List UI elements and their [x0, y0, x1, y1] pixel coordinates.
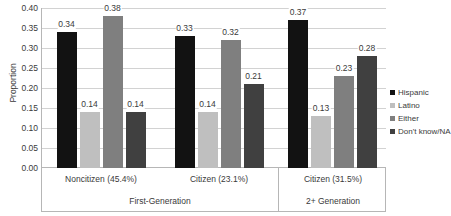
legend-item-hispanic[interactable]: Hispanic: [390, 86, 431, 99]
bar-either[interactable]: 0.32: [221, 40, 241, 168]
bar-groups: 0.34 0.14 0.38 0.14: [42, 8, 386, 168]
bar-slot: 0.21: [244, 8, 264, 168]
bar-slot: 0.23: [334, 8, 354, 168]
x-tick-label-noncitizen: Noncitizen (45.4%): [42, 168, 160, 190]
bar-slot: 0.32: [221, 8, 241, 168]
y-tick-label: 0.25: [8, 64, 38, 73]
bar-latino[interactable]: 0.14: [198, 112, 218, 168]
bar-hispanic[interactable]: 0.34: [57, 32, 77, 168]
x-axis-supercategory-row: First-Generation 2+ Generation: [42, 190, 385, 212]
y-tick-label: 0.35: [8, 24, 38, 33]
legend-item-either[interactable]: Either: [390, 112, 431, 125]
bar-value-label: 0.32: [221, 28, 240, 37]
bar-dont-know-na[interactable]: 0.21: [244, 84, 264, 168]
legend-label: Don't know/NA: [398, 128, 451, 136]
bar-value-label: 0.28: [358, 44, 377, 53]
bar-either[interactable]: 0.38: [103, 16, 123, 168]
legend-label: Latino: [398, 102, 420, 110]
bar-value-label: 0.37: [289, 8, 308, 17]
legend-label: Either: [398, 115, 419, 123]
legend-swatch-icon: [390, 129, 395, 134]
x-group-label-2plus-generation: 2+ Generation: [278, 190, 387, 212]
bar-value-label: 0.14: [198, 100, 217, 109]
x-axis: Noncitizen (45.4%) Citizen (23.1%) Citiz…: [41, 168, 386, 212]
legend-item-dont-know-na[interactable]: Don't know/NA: [390, 125, 431, 138]
bar-group-citizen-first-generation: 0.33 0.14 0.32 0.21: [160, 8, 278, 168]
bar-value-label: 0.34: [57, 20, 76, 29]
bar-slot: 0.38: [103, 8, 123, 168]
bar-value-label: 0.21: [244, 72, 263, 81]
bar-group-citizen-2plus-generation: 0.37 0.13 0.23 0.28: [278, 8, 387, 168]
bar-value-label: 0.33: [175, 24, 194, 33]
bar-slot: 0.14: [126, 8, 146, 168]
bar-slot: 0.14: [80, 8, 100, 168]
y-tick-label: 0.05: [8, 144, 38, 153]
bar-value-label: 0.14: [126, 100, 145, 109]
x-group-label-first-generation: First-Generation: [42, 190, 278, 212]
legend-item-latino[interactable]: Latino: [390, 99, 431, 112]
legend-swatch-icon: [390, 90, 395, 95]
bar-slot: 0.14: [198, 8, 218, 168]
bar-value-label: 0.14: [80, 100, 99, 109]
x-tick-label-citizen-2plus: Citizen (31.5%): [278, 168, 387, 190]
bar-slot: 0.28: [357, 8, 377, 168]
y-tick-label: 0.10: [8, 124, 38, 133]
bar-slot: 0.37: [288, 8, 308, 168]
legend-swatch-icon: [390, 116, 395, 121]
y-tick-label: 0.00: [8, 164, 38, 173]
bar-value-label: 0.38: [103, 4, 122, 13]
y-axis-tick-labels: 0.40 0.35 0.30 0.25 0.20 0.15 0.10 0.05 …: [8, 8, 38, 168]
bar-value-label: 0.13: [312, 104, 331, 113]
bar-group-noncitizen-first-generation: 0.34 0.14 0.38 0.14: [42, 8, 160, 168]
plot-area: 0.34 0.14 0.38 0.14: [41, 8, 386, 168]
legend: Hispanic Latino Either Don't know/NA: [390, 86, 431, 138]
bar-slot: 0.13: [311, 8, 331, 168]
y-tick-label: 0.20: [8, 84, 38, 93]
bar-slot: 0.34: [57, 8, 77, 168]
y-tick-label: 0.40: [8, 4, 38, 13]
bar-dont-know-na[interactable]: 0.14: [126, 112, 146, 168]
bar-latino[interactable]: 0.13: [311, 116, 331, 168]
bar-hispanic[interactable]: 0.33: [175, 36, 195, 168]
bar-dont-know-na[interactable]: 0.28: [357, 56, 377, 168]
bar-slot: 0.33: [175, 8, 195, 168]
x-tick-label-citizen-first: Citizen (23.1%): [160, 168, 278, 190]
legend-label: Hispanic: [398, 89, 429, 97]
y-tick-label: 0.30: [8, 44, 38, 53]
legend-swatch-icon: [390, 103, 395, 108]
bar-hispanic[interactable]: 0.37: [288, 20, 308, 168]
bar-either[interactable]: 0.23: [334, 76, 354, 168]
x-axis-category-row: Noncitizen (45.4%) Citizen (23.1%) Citiz…: [42, 168, 385, 190]
bar-value-label: 0.23: [335, 64, 354, 73]
y-tick-label: 0.15: [8, 104, 38, 113]
bar-latino[interactable]: 0.14: [80, 112, 100, 168]
